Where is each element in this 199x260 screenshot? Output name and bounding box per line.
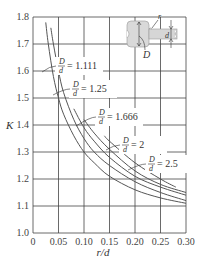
x-axis-ticks: 00.050.100.150.200.250.30: [31, 236, 195, 247]
svg-text:= 2: = 2: [131, 139, 144, 150]
svg-text:D: D: [148, 155, 155, 164]
y-tick-label: 1.1: [17, 200, 30, 211]
x-tick-label: 0.25: [152, 236, 170, 247]
svg-text:= 1.25: = 1.25: [81, 83, 107, 94]
inset-label-r: r: [158, 12, 162, 21]
y-tick-label: 1.0: [17, 227, 30, 238]
svg-text:D: D: [122, 136, 129, 145]
stress-concentration-chart: 00.050.100.150.200.250.30 1.01.11.21.31.…: [0, 0, 199, 260]
svg-text:D: D: [98, 108, 105, 117]
x-tick-label: 0.20: [126, 236, 144, 247]
x-tick-label: 0.30: [177, 236, 195, 247]
y-tick-label: 1.8: [17, 11, 30, 22]
y-tick-label: 1.2: [17, 173, 30, 184]
y-axis-ticks: 1.01.11.21.31.41.51.61.71.8: [17, 11, 30, 238]
x-tick-label: 0.05: [50, 236, 68, 247]
svg-text:D: D: [58, 57, 65, 66]
inset-label-D: D: [142, 49, 151, 60]
svg-text:= 1.111: = 1.111: [67, 60, 97, 71]
y-tick-label: 1.4: [17, 119, 30, 130]
y-tick-label: 1.6: [17, 65, 30, 76]
curve-labels: Dd= 1.111Dd= 1.25Dd= 1.666Dd= 2Dd= 2.5: [42, 57, 193, 173]
shaft-illustration: r d D: [127, 12, 177, 60]
y-tick-label: 1.3: [17, 146, 30, 157]
y-axis-label: K: [5, 119, 14, 131]
curve-label: Dd= 1.666: [76, 108, 143, 126]
y-tick-label: 1.7: [17, 38, 30, 49]
x-axis-label: r/d: [97, 246, 110, 258]
curve-label: Dd= 2: [106, 136, 167, 154]
y-tick-label: 1.5: [17, 92, 30, 103]
x-tick-label: 0.10: [75, 236, 93, 247]
svg-text:= 1.666: = 1.666: [107, 111, 138, 122]
curve-label: Dd= 2.5: [128, 155, 193, 173]
svg-text:= 2.5: = 2.5: [157, 158, 178, 169]
x-tick-label: 0: [31, 236, 36, 247]
svg-text:D: D: [72, 80, 79, 89]
